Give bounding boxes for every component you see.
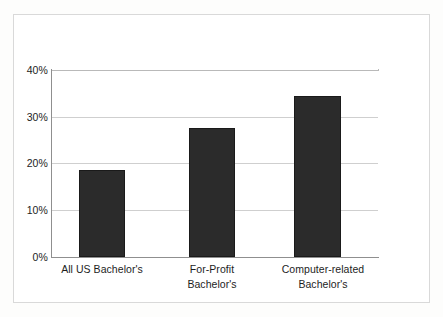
bar-computer-related-bachelors xyxy=(294,96,341,257)
x-tick-label-all-us-bachelors: All US Bachelor's xyxy=(47,262,157,277)
y-tick-label-0: 0% xyxy=(2,252,48,262)
y-axis-line xyxy=(51,69,52,258)
x-tick-line-1: Computer-related xyxy=(282,263,365,275)
x-tick-line-2: Bachelor's xyxy=(157,277,267,292)
x-tick-label-for-profit-bachelors: For-Profit Bachelor's xyxy=(157,262,267,291)
x-tick-line-2: Bachelor's xyxy=(262,277,384,292)
y-tick-label-20: 20% xyxy=(2,158,48,168)
bar-for-profit-bachelors xyxy=(189,128,235,257)
x-axis-line xyxy=(51,257,379,258)
x-tick-line-1: All US Bachelor's xyxy=(61,263,143,275)
x-tick-label-computer-related-bachelors: Computer-related Bachelor's xyxy=(262,262,384,291)
x-tick-line-1: For-Profit xyxy=(190,263,234,275)
x-axis-category-labels: All US Bachelor's For-Profit Bachelor's … xyxy=(51,262,378,306)
y-tick-label-30: 30% xyxy=(2,112,48,122)
bar-all-us-bachelors xyxy=(79,170,125,257)
y-tick-label-40: 40% xyxy=(2,65,48,75)
plot-area xyxy=(51,70,378,257)
plot-top-right-corner xyxy=(378,69,379,71)
y-axis-tick-labels: 40% 30% 20% 10% 0% xyxy=(0,0,48,317)
bar-chart-figure: 40% 30% 20% 10% 0% All US Bachelor's For… xyxy=(0,0,443,317)
y-tick-label-10: 10% xyxy=(2,205,48,215)
gridline-40 xyxy=(51,70,378,71)
